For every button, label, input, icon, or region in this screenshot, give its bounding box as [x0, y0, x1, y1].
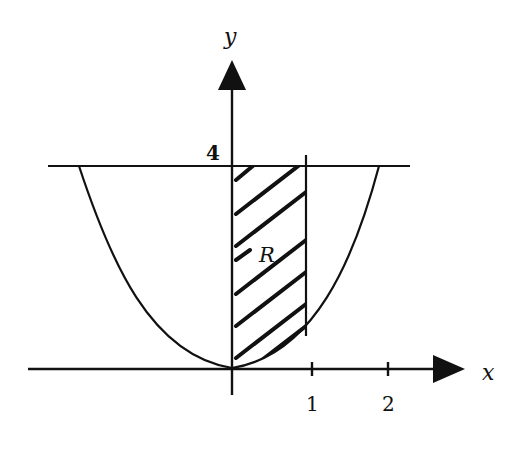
y-axis-label: y — [223, 24, 237, 49]
x-tick-label-1: 1 — [306, 392, 319, 416]
diagram-canvas: y x 4 1 2 R — [0, 0, 515, 450]
region-label: R — [258, 243, 275, 267]
y-axis-arrow-icon — [218, 60, 246, 90]
x-axis-arrow-icon — [433, 355, 465, 383]
x-axis-label: x — [482, 360, 495, 385]
y-tick-label-4: 4 — [206, 141, 220, 165]
region-r-hatching — [236, 160, 306, 380]
x-tick-label-2: 2 — [382, 392, 395, 416]
parabola-curve — [79, 166, 379, 368]
